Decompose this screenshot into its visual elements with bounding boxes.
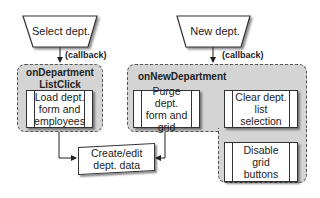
step-create-edit-dept-data: Create/edit dept. data — [78, 143, 155, 175]
step-label-line: grid — [143, 121, 190, 133]
select-dept-label: Select dept. — [30, 25, 92, 37]
step-disable-grid-buttons: Disable grid buttons — [224, 142, 298, 182]
step-label-line: Create/edit — [91, 147, 142, 159]
step-label-line: Purge dept. — [143, 85, 190, 109]
step-label-line: buttons — [234, 168, 288, 180]
step-load-dept-form: Load dept. form and employees — [26, 90, 93, 128]
step-label-line: Clear dept. — [235, 91, 286, 103]
new-dept-label: New dept. — [184, 25, 246, 37]
step-label-line: Disable grid — [234, 144, 288, 168]
callback-label-left: (callback) — [65, 50, 107, 60]
group-title-on-department-list-click: onDepartment ListClick — [17, 67, 103, 91]
step-label-line: form and — [143, 109, 190, 121]
step-purge-dept-form: Purge dept. form and grid — [133, 90, 200, 128]
step-label-line: dept. data — [91, 159, 142, 171]
callback-label-right: (callback) — [222, 50, 264, 60]
step-label-line: selection — [235, 115, 286, 127]
step-label-line: Load dept. — [34, 91, 85, 103]
group-title-on-new-department: onNewDepartment — [127, 71, 318, 83]
step-clear-dept-selection: Clear dept. list selection — [224, 90, 298, 128]
step-label-line: employees — [34, 115, 85, 127]
step-label-line: form and — [34, 103, 85, 115]
group-title-line: onDepartment — [17, 67, 103, 79]
step-label-line: list — [235, 103, 286, 115]
